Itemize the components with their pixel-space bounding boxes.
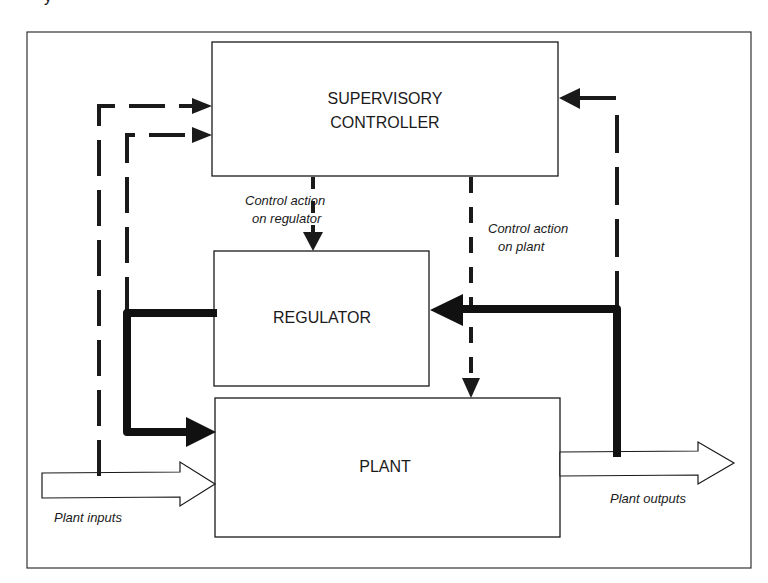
title-fragment: y (44, 0, 52, 5)
control-on-regulator-label-line1: Control action (245, 193, 325, 208)
plant-inputs-label: Plant inputs (54, 510, 122, 525)
arrowhead-icon (192, 98, 212, 114)
supervisory-label-line2: CONTROLLER (330, 114, 439, 131)
control-hierarchy-diagram: y SUPERVISORY CONTROLLER REGULATOR PLANT… (0, 0, 768, 583)
plant-block[interactable]: PLANT (215, 398, 560, 537)
arrowhead-icon (462, 378, 480, 398)
dashed-feed-plant-inputs (99, 98, 212, 476)
dashed-control-on-plant (462, 177, 480, 398)
control-on-plant-label-line1: Control action (488, 221, 568, 236)
plant-inputs-arrow (42, 462, 215, 506)
arrowhead-icon (186, 417, 216, 447)
dashed-feed-regulator-output (127, 127, 212, 313)
arrowhead-icon (192, 127, 212, 143)
plant-outputs-arrow (560, 442, 734, 484)
control-on-regulator-label-line2: on regulator (252, 211, 322, 226)
arrowhead-icon (559, 88, 580, 109)
control-on-plant-label-line2: on plant (498, 239, 546, 254)
supervisory-label-line1: SUPERVISORY (327, 90, 442, 107)
plant-label: PLANT (359, 458, 411, 475)
plant-outputs-label: Plant outputs (610, 491, 686, 506)
arrowhead-icon (430, 294, 463, 326)
dashed-feed-plant-outputs (559, 88, 617, 309)
thick-regulator-to-plant (127, 313, 217, 447)
regulator-label: REGULATOR (273, 309, 371, 326)
supervisory-controller-block[interactable]: SUPERVISORY CONTROLLER (212, 42, 558, 176)
arrowhead-icon (303, 232, 323, 251)
regulator-block[interactable]: REGULATOR (214, 251, 429, 386)
